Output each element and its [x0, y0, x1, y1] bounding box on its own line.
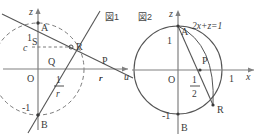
figure-1-canvas: z u A B P Q R S 1 -1 c r r 1 r 図1: [0, 0, 135, 138]
origin-label: O: [168, 74, 175, 85]
tick-label-c: c: [23, 42, 28, 53]
point-marker-A: [176, 24, 179, 27]
fraction-denominator: r: [56, 89, 60, 99]
z-axis-arrowhead: [35, 8, 40, 14]
fraction-denominator: 2: [192, 89, 197, 99]
axis-label-u: u: [124, 71, 129, 82]
tick-label-x-one: 1: [229, 73, 234, 84]
axis-label-z: z: [168, 8, 173, 19]
point-label-R: R: [76, 41, 83, 52]
point-label-P: P: [102, 55, 108, 66]
axis-label-z: z: [28, 6, 33, 17]
point-marker-B: [176, 112, 179, 115]
figure-2-caption: 図2: [138, 12, 152, 22]
point-label-R: R: [217, 104, 224, 115]
tick-label-z-minus-one: -1: [22, 102, 30, 113]
point-label-S: S: [32, 36, 38, 47]
point-label-Q: Q: [48, 56, 56, 67]
tick-label-z-minus-one: -1: [162, 110, 170, 121]
fraction-numerator: 1: [192, 75, 197, 85]
axis-label-x: x: [245, 71, 251, 82]
point-marker-A: [36, 21, 39, 24]
point-marker-P: [198, 68, 201, 71]
point-label-B: B: [41, 119, 48, 130]
point-label-P: P: [202, 55, 208, 66]
point-marker-B: [36, 113, 39, 116]
point-marker-R: [211, 103, 214, 106]
figure-1: z u A B P Q R S 1 -1 c r r 1 r 図1: [0, 0, 135, 138]
figure-2-canvas: z x A B P R 1 -1 1 O 1 2 2x+z=1 図2: [130, 0, 261, 138]
figure-2: z x A B P R 1 -1 1 O 1 2 2x+z=1 図2: [130, 0, 261, 138]
equation-label: 2x+z=1: [192, 21, 222, 31]
point-label-A: A: [41, 22, 49, 33]
fraction-numerator: 1: [56, 75, 61, 85]
point-label-A: A: [181, 26, 189, 37]
figure-1-caption: 図1: [105, 12, 119, 22]
figure-pair-illustration: z u A B P Q R S 1 -1 c r r 1 r 図1: [0, 0, 261, 138]
tick-label-z-one: 1: [167, 35, 172, 46]
tick-label-u-r: r: [99, 73, 103, 83]
point-label-B: B: [181, 122, 188, 133]
tick-label-z-one: 1: [27, 32, 32, 43]
fraction-one-half: 1 2: [190, 75, 200, 99]
z-axis-arrowhead: [175, 10, 180, 16]
